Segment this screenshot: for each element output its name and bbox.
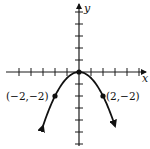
point-label-left: (−2,−2) xyxy=(6,90,49,102)
data-point xyxy=(76,69,81,74)
point-label-right: (2,−2) xyxy=(106,90,140,102)
x-axis-label: x xyxy=(142,72,149,85)
data-point xyxy=(100,93,105,98)
parabola-chart: y x (−2,−2) (2,−2) xyxy=(0,0,150,149)
data-point xyxy=(52,93,57,98)
y-axis-label: y xyxy=(83,2,91,15)
